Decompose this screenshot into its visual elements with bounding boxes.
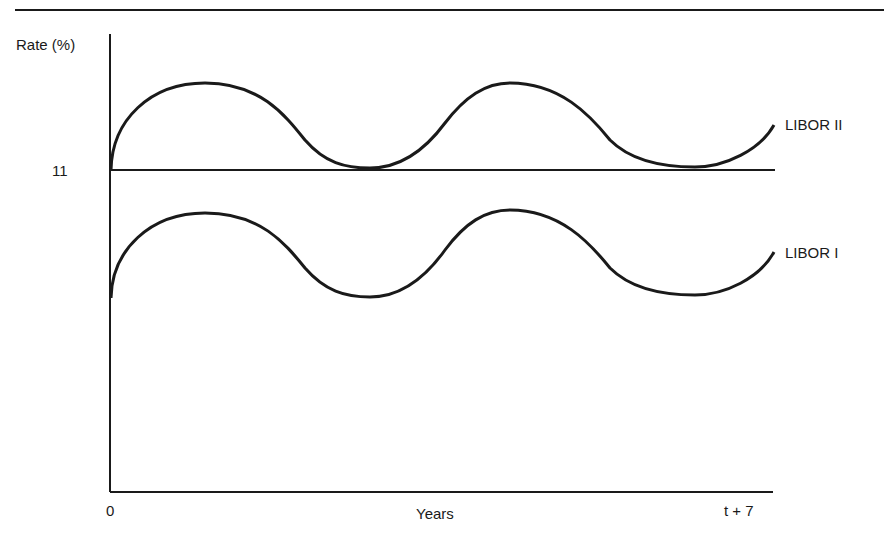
x-tick-start: 0 xyxy=(106,502,114,519)
label-libor-i: LIBOR I xyxy=(785,244,838,261)
x-tick-end: t + 7 xyxy=(724,502,754,519)
y-tick-11: 11 xyxy=(52,162,68,179)
chart-canvas xyxy=(0,0,884,547)
series-libor-i xyxy=(111,210,774,298)
x-axis-label: Years xyxy=(416,505,454,522)
series-libor-ii xyxy=(111,83,774,170)
y-axis-label: Rate (%) xyxy=(16,36,75,53)
label-libor-ii: LIBOR II xyxy=(785,116,843,133)
